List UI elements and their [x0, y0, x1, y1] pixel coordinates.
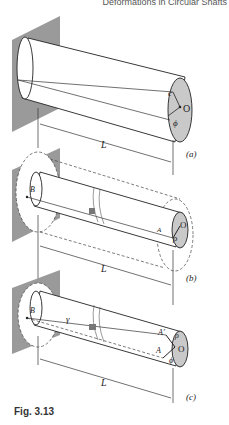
center-point-a: [179, 106, 182, 109]
label-A-prime: A′: [157, 328, 165, 337]
element-c: [89, 324, 96, 330]
shaft-b-body: [34, 172, 182, 247]
label-o-c: O: [178, 344, 185, 354]
panel-a: c O ϕ L (a): [12, 16, 197, 175]
shaft-a-body: [22, 38, 185, 142]
panel-label-b: (b): [186, 273, 197, 283]
label-o-b: O: [180, 220, 187, 230]
label-phi-a: ϕ: [173, 118, 178, 128]
shaft-a-back: [17, 37, 33, 99]
label-phi-c: ϕ: [169, 356, 173, 365]
label-c: c: [168, 88, 172, 98]
point-B-b: [26, 196, 28, 198]
label-rho-c: ρ: [174, 331, 179, 340]
panel-c: B γ A′ A ρ O ϕ L (c): [12, 270, 196, 403]
label-A-b: A: [156, 226, 162, 234]
label-o-a: O: [183, 103, 190, 114]
label-L-a: L: [100, 139, 107, 150]
figure-caption: Fig. 3.13: [14, 406, 54, 417]
torsion-figure: c O ϕ L (a) B A O ρ L (b): [0, 0, 229, 425]
point-B-c: [26, 317, 28, 319]
label-B-c: B: [30, 306, 35, 315]
panel-label-c: (c): [186, 392, 196, 402]
label-rho-b: ρ: [172, 233, 178, 243]
panel-label-a: (a): [186, 149, 197, 159]
label-L-b: L: [100, 263, 107, 274]
label-B-b: B: [30, 185, 35, 194]
element-b: [89, 208, 95, 214]
label-gamma: γ: [66, 314, 70, 324]
label-A-c: A: [155, 346, 161, 355]
label-L-c: L: [100, 377, 107, 388]
